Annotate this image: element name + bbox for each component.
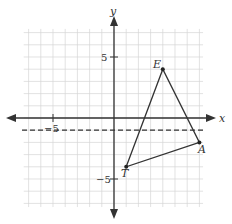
tick-x-neg5: −5 [44,123,59,134]
point-E [161,67,165,71]
arrow-left-icon [6,114,16,122]
tick-y-neg5: −5 [96,174,111,185]
coordinate-plane: x y −5 5 −5 E A T [0,0,232,224]
label-T: T [121,167,130,180]
tick-y-5: 5 [101,52,107,63]
label-A: A [197,143,206,156]
label-E: E [152,58,161,71]
arrow-right-icon [206,114,216,122]
arrow-down-icon [110,209,118,219]
x-axis [6,114,216,122]
x-axis-label: x [219,112,226,125]
y-axis-label: y [109,5,117,18]
